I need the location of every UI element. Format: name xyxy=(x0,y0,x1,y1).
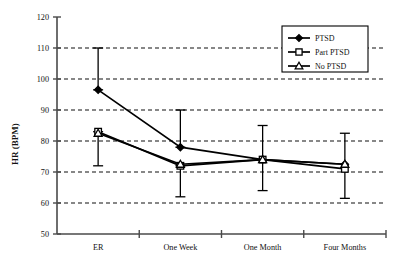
y-tick-label: 70 xyxy=(41,168,49,177)
chart-container: 5060708090100110120 EROne WeekOne MonthF… xyxy=(0,0,398,268)
y-axis-title: HR (BPM) xyxy=(10,123,20,165)
y-tick-label: 120 xyxy=(37,13,49,22)
x-tick-label-four-months: Four Months xyxy=(324,243,367,252)
legend-label: Part PTSD xyxy=(315,48,350,57)
y-tick-label: 110 xyxy=(37,44,49,53)
square-marker xyxy=(296,49,302,55)
x-tick-label-one-month: One Month xyxy=(244,243,282,252)
y-tick-label: 80 xyxy=(41,137,49,146)
legend-label: No PTSD xyxy=(315,62,347,71)
legend-item-part-ptsd: Part PTSD xyxy=(288,48,350,57)
y-tick-label: 100 xyxy=(37,75,49,84)
legend-label: PTSD xyxy=(315,34,335,43)
y-tick-label: 60 xyxy=(41,199,49,208)
x-tick-label-one-week: One Week xyxy=(163,243,198,252)
y-tick-label: 50 xyxy=(41,230,49,239)
x-tick-label-er: ER xyxy=(93,243,104,252)
chart-legend: PTSDPart PTSDNo PTSD xyxy=(282,26,368,72)
y-tick-label: 90 xyxy=(41,106,49,115)
line-chart: 5060708090100110120 EROne WeekOne MonthF… xyxy=(0,0,398,268)
